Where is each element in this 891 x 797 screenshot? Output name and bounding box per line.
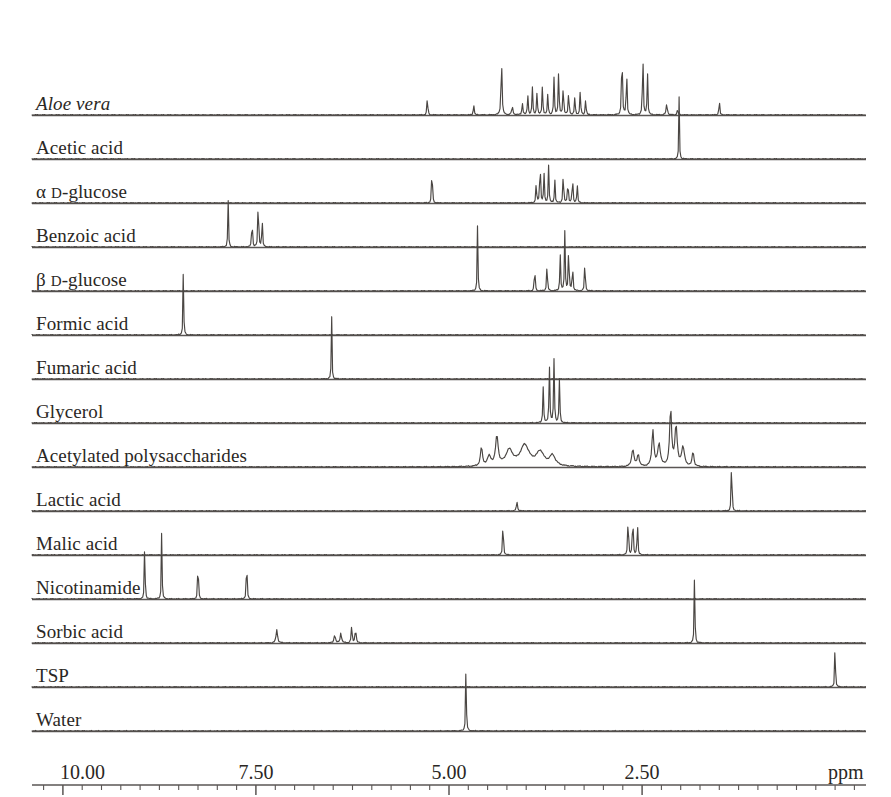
spectrum-trace [32, 533, 865, 599]
spectrum-trace [32, 274, 865, 335]
spectrum-trace [32, 165, 865, 203]
trace-label: Acetylated polysaccharides [36, 446, 247, 465]
spectrum-trace [32, 580, 865, 643]
spectrum-trace [32, 527, 865, 555]
trace-label: Fumaric acid [36, 358, 137, 377]
trace-label: Water [36, 710, 81, 729]
spectrum-trace [32, 201, 865, 248]
spectrum-trace [32, 473, 865, 511]
spectrum-trace [32, 359, 865, 423]
trace-label: Malic acid [36, 534, 118, 553]
axis-tick-label: 10.00 [60, 762, 105, 782]
sugar-name: -glucose [62, 269, 127, 290]
axis-unit-label: ppm [828, 762, 864, 782]
trace-label: Lactic acid [36, 490, 121, 509]
spectrum-trace [32, 226, 865, 291]
spectrum-trace [32, 317, 865, 379]
trace-label: Aloe vera [36, 94, 110, 113]
spectrum-trace [32, 97, 865, 159]
trace-label: α D-glucose [36, 182, 127, 203]
spectrum-trace [32, 64, 865, 115]
axis-tick-label: 5.00 [432, 762, 467, 782]
spectra-plot [0, 0, 891, 797]
trace-label: Glycerol [36, 402, 103, 421]
spectrum-trace [32, 653, 865, 687]
stereo-descriptor: D [51, 185, 62, 201]
trace-label: Nicotinamide [36, 578, 141, 597]
anomer-symbol: α [36, 181, 51, 202]
axis-tick-label: 7.50 [238, 762, 273, 782]
stereo-descriptor: D [51, 273, 62, 289]
trace-label: Benzoic acid [36, 226, 136, 245]
sugar-name: -glucose [62, 181, 127, 202]
trace-label: Formic acid [36, 314, 128, 333]
trace-label: β D-glucose [36, 270, 127, 291]
trace-label: Sorbic acid [36, 622, 123, 641]
anomer-symbol: β [36, 269, 51, 290]
nmr-stack-figure: Aloe veraAcetic acidα D-glucoseBenzoic a… [0, 0, 891, 797]
trace-label: Acetic acid [36, 138, 123, 157]
axis-tick-label: 2.50 [625, 762, 660, 782]
trace-label: TSP [36, 666, 69, 685]
spectrum-trace [32, 674, 865, 731]
